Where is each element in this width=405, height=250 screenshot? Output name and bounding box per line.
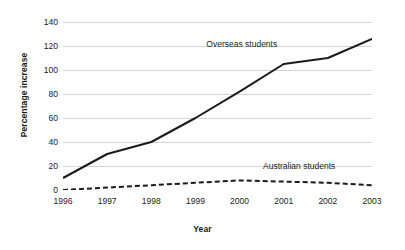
y-axis-tick-label: 20 [20, 162, 58, 171]
line-chart: Percentage increase 020406080100120140 1… [0, 0, 405, 250]
y-axis-tick-label: 80 [20, 90, 58, 99]
x-axis-title: Year [0, 224, 405, 234]
x-axis-tick-label: 2000 [230, 197, 249, 206]
y-axis-tick-label: 0 [20, 186, 58, 195]
y-axis-tick-label: 60 [20, 114, 58, 123]
y-axis-tick-label: 120 [20, 42, 58, 51]
x-axis-tick-labels: 19961997199819992000200120022003 [0, 197, 405, 211]
series-line-australian-students [63, 180, 372, 190]
x-axis-tick-label: 2002 [318, 197, 337, 206]
x-axis-tick-label: 1999 [186, 197, 205, 206]
y-axis-tick-label: 100 [20, 66, 58, 75]
y-axis-tick-label: 140 [20, 18, 58, 27]
x-axis-tick-label: 2001 [274, 197, 293, 206]
x-axis-tick-label: 1997 [98, 197, 117, 206]
series-label-overseas-students: Overseas students [206, 39, 277, 48]
y-axis-tick-label: 40 [20, 138, 58, 147]
y-axis-tick-labels: 020406080100120140 [20, 0, 58, 250]
x-axis-tick-label: 1998 [142, 197, 161, 206]
x-axis-tick-label: 1996 [54, 197, 73, 206]
series-line-overseas-students [63, 39, 372, 178]
x-axis-tick-label: 2003 [363, 197, 382, 206]
series-label-australian-students: Australian students [263, 162, 335, 171]
